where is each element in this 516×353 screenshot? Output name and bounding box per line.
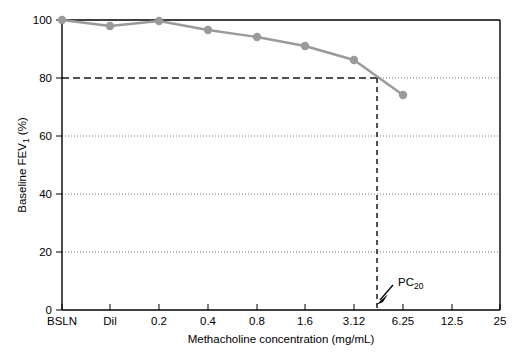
data-point-1-6 [301,42,309,50]
y-axis-ticks [56,20,62,310]
data-point-0-8 [253,33,261,41]
y-axis-title-unit: (%) [16,117,28,138]
data-point-0-2 [155,17,163,25]
y-tick-label-60: 60 [39,130,52,142]
plot-area-background [62,20,500,310]
x-tick-label-dil: Dil [103,315,116,327]
methacholine-challenge-chart: 100 80 60 40 20 0 BSLN Dil 0.2 0.4 0.8 [0,0,516,353]
chart-container: 100 80 60 40 20 0 BSLN Dil 0.2 0.4 0.8 [0,0,516,353]
x-tick-label-3-12: 3.12 [343,315,365,327]
x-tick-label-0-4: 0.4 [200,315,217,327]
data-point-0-4 [204,26,212,34]
y-tick-label-20: 20 [39,246,52,258]
x-axis-tick-labels: BSLN Dil 0.2 0.4 0.8 1.6 3.12 6.25 12.5 … [47,315,506,327]
y-tick-label-100: 100 [33,14,52,26]
pc20-label-subscript: 20 [414,281,424,291]
x-tick-label-6-25: 6.25 [392,315,414,327]
data-point-bsln [58,16,66,24]
data-point-3-12 [350,56,358,64]
pc20-label-main: PC [398,276,414,288]
y-axis-title: Baseline FEV1 (%) [16,117,31,213]
x-tick-label-bsln: BSLN [47,315,77,327]
x-tick-label-0-2: 0.2 [151,315,167,327]
y-axis-title-main: Baseline FEV [16,143,28,213]
x-tick-label-0-8: 0.8 [249,315,265,327]
data-point-dil [106,22,114,30]
data-point-6-25 [399,91,407,99]
x-axis-title: Methacholine concentration (mg/mL) [188,333,375,345]
y-tick-label-40: 40 [39,188,52,200]
x-tick-label-1-6: 1.6 [297,315,313,327]
x-tick-label-25: 25 [494,315,507,327]
y-tick-label-80: 80 [39,72,52,84]
x-tick-label-12-5: 12.5 [441,315,463,327]
y-axis-tick-labels: 100 80 60 40 20 0 [33,14,52,316]
